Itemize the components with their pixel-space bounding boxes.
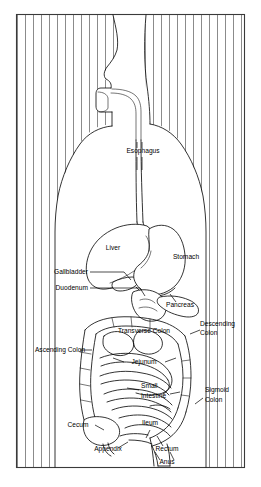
- label-sigmoid-colon-line2: Colon: [205, 396, 223, 403]
- label-stomach: Stomach: [173, 253, 199, 260]
- label-rectum: Rectum: [156, 445, 179, 452]
- label-esophagus: Esophagus: [126, 147, 160, 155]
- label-small-intestine-line1: Small: [141, 382, 158, 389]
- label-ascending-colon: Ascending Colon: [35, 346, 85, 354]
- esophagus-organ: [136, 140, 151, 236]
- label-small-intestine-line2: Intestine: [141, 392, 166, 399]
- label-anus: Anus: [159, 458, 175, 465]
- anatomy-diagram-svg: Esophagus Liver Stomach Gallbladder Duod…: [0, 0, 261, 487]
- label-gallbladder: Gallbladder: [54, 268, 89, 275]
- label-pancreas: Pancreas: [166, 301, 195, 308]
- label-duodenum: Duodenum: [56, 284, 89, 291]
- label-liver: Liver: [106, 244, 121, 251]
- label-transverse-colon: Transverse Colon: [118, 327, 170, 334]
- label-sigmoid-colon-line1: Sigmoid: [205, 386, 229, 394]
- cecum-organ: [83, 417, 119, 446]
- label-appendix: Appendix: [94, 445, 122, 453]
- label-descending-colon-line2: Colon: [200, 329, 218, 336]
- digestive-system-figure: Esophagus Liver Stomach Gallbladder Duod…: [0, 0, 261, 487]
- label-descending-colon-line1: Descending: [200, 320, 235, 328]
- label-jejunum: Jejunum: [131, 358, 157, 366]
- label-ileum: Ileum: [142, 419, 159, 426]
- label-cecum: Cecum: [68, 421, 89, 428]
